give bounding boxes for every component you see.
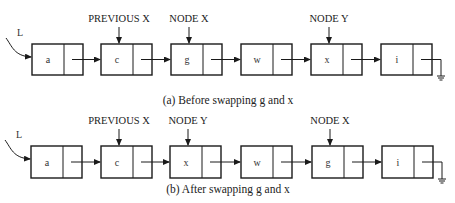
node-value: a	[46, 54, 51, 65]
pointer-label: PREVIOUS X	[88, 13, 150, 24]
diagram-after-swap: LacxwgiPREVIOUS XNODE YNODE X(b) After s…	[5, 115, 446, 196]
list-node: a	[32, 44, 100, 75]
node-value: i	[397, 157, 400, 168]
linked-list-swap-diagram: LacgwxiPREVIOUS XNODE XNODE Y(a) Before …	[0, 0, 455, 203]
node-value: x	[184, 157, 189, 168]
head-pointer-arrow-icon	[5, 140, 30, 159]
pointer-label: PREVIOUS X	[88, 115, 150, 126]
pointer-annotation: NODE Y	[310, 13, 349, 43]
list-node: x	[170, 146, 240, 178]
node-value: i	[396, 54, 399, 65]
diagram-before-swap: LacgwxiPREVIOUS XNODE XNODE Y(a) Before …	[6, 13, 445, 107]
pointer-annotation: NODE Y	[169, 115, 208, 145]
diagram-caption: (b) After swapping g and x	[166, 183, 290, 196]
node-value: c	[115, 157, 120, 168]
pointer-label: NODE X	[169, 13, 209, 24]
list-node: a	[31, 146, 100, 178]
head-pointer-arrow-icon	[6, 38, 31, 57]
pointer-label: NODE Y	[169, 115, 208, 126]
head-pointer-label: L	[17, 27, 23, 38]
node-value: a	[45, 157, 50, 168]
list-node: g	[171, 44, 240, 75]
list-node: x	[311, 44, 380, 75]
pointer-annotation: PREVIOUS X	[88, 115, 150, 145]
pointer-annotation: NODE X	[169, 13, 209, 43]
pointer-label: NODE X	[310, 115, 350, 126]
list-node: c	[101, 146, 169, 178]
list-node: i	[382, 146, 446, 183]
pointer-label: NODE Y	[310, 13, 349, 24]
node-value: g	[185, 54, 190, 65]
list-node: i	[381, 44, 445, 80]
node-value: w	[253, 157, 261, 168]
list-node: w	[241, 146, 311, 178]
list-node: w	[241, 44, 310, 75]
pointer-annotation: PREVIOUS X	[88, 13, 150, 43]
node-value: g	[326, 157, 331, 168]
list-node: c	[101, 44, 170, 75]
node-value: w	[253, 54, 261, 65]
diagram-caption: (a) Before swapping g and x	[163, 94, 294, 107]
node-value: x	[325, 54, 330, 65]
head-pointer-label: L	[16, 129, 22, 140]
list-node: g	[312, 146, 381, 178]
pointer-annotation: NODE X	[310, 115, 350, 145]
node-value: c	[115, 54, 120, 65]
